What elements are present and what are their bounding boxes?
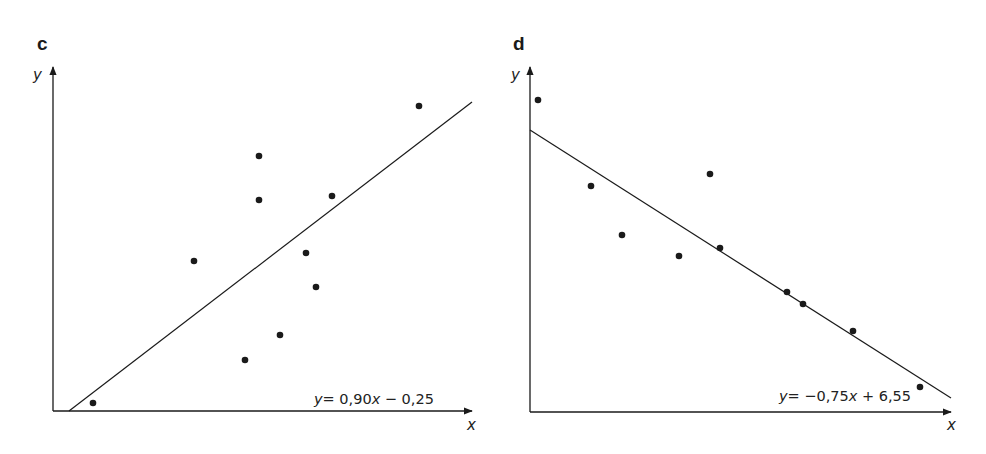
x-axis-label-d: x xyxy=(946,416,956,434)
data-point xyxy=(303,250,310,257)
data-points-d xyxy=(535,97,924,391)
data-point xyxy=(277,332,284,339)
y-axis-label-d: y xyxy=(510,66,521,84)
data-point xyxy=(619,232,626,239)
equation-label-d: y= −0,75x + 6,55 xyxy=(778,388,911,404)
regression-line xyxy=(530,130,951,398)
equation-label-c: y= 0,90x − 0,25 xyxy=(313,391,434,407)
scatter-charts: c y x y= 0,90x − 0,25 d y x y= −0,75x + … xyxy=(0,0,986,454)
panel-label-d: d xyxy=(513,33,525,54)
data-point xyxy=(191,258,198,265)
data-point xyxy=(800,301,807,308)
axes-d xyxy=(530,67,951,412)
data-point xyxy=(256,197,263,204)
chart-panel-c: c y x y= 0,90x − 0,25 xyxy=(32,33,476,434)
data-point xyxy=(717,245,724,252)
axes-c xyxy=(53,67,472,411)
y-axis-label-c: y xyxy=(32,66,43,84)
regression-line xyxy=(69,102,472,411)
panel-label-c: c xyxy=(37,33,48,54)
trendline-c xyxy=(69,102,472,411)
data-point xyxy=(676,253,683,260)
data-point xyxy=(784,289,791,296)
data-point xyxy=(313,284,320,291)
x-axis-label-c: x xyxy=(466,416,476,434)
data-point xyxy=(329,193,336,200)
data-point xyxy=(707,171,714,178)
data-point xyxy=(416,103,423,110)
data-point xyxy=(90,400,97,407)
data-points-c xyxy=(90,103,423,407)
data-point xyxy=(256,153,263,160)
data-point xyxy=(917,384,924,391)
trendline-d xyxy=(530,130,951,398)
data-point xyxy=(588,183,595,190)
chart-panel-d: d y x y= −0,75x + 6,55 xyxy=(510,33,956,434)
data-point xyxy=(850,328,857,335)
data-point xyxy=(242,357,249,364)
data-point xyxy=(535,97,542,104)
